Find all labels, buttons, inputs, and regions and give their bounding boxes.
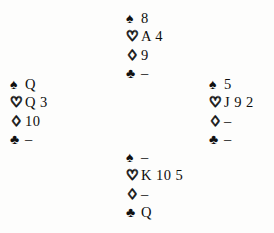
heart-icon: ♡ <box>126 169 139 183</box>
diamond-icon: ♢ <box>10 115 23 129</box>
hand-east-hearts-ranks: J 9 2 <box>222 95 254 110</box>
club-icon: ♣ <box>126 206 139 220</box>
diamond-icon: ♢ <box>209 115 222 129</box>
hand-south: ♠ – ♡ K 10 5 ♢ – ♣ Q <box>126 150 183 223</box>
hand-east-diamonds-row: ♢ – <box>209 114 254 132</box>
hand-west: ♠ Q ♡ Q 3 ♢ 10 ♣ – <box>10 77 48 150</box>
hand-north-spades-row: ♠ 8 <box>126 11 163 29</box>
hand-east-diamonds-ranks: – <box>222 114 231 129</box>
hand-east-spades-row: ♠ 5 <box>209 77 254 95</box>
hand-south-clubs-ranks: Q <box>139 205 152 220</box>
hand-south-spades-row: ♠ – <box>126 150 183 168</box>
hand-east-hearts-row: ♡ J 9 2 <box>209 95 254 113</box>
hand-east-clubs-row: ♣ – <box>209 132 254 150</box>
hand-east: ♠ 5 ♡ J 9 2 ♢ – ♣ – <box>209 77 254 150</box>
hand-north-hearts-ranks: A 4 <box>139 29 163 44</box>
hand-west-hearts-ranks: Q 3 <box>23 95 48 110</box>
hand-south-diamonds-ranks: – <box>139 187 148 202</box>
heart-icon: ♡ <box>126 30 139 44</box>
hand-south-hearts-ranks: K 10 5 <box>139 168 183 183</box>
hand-north-spades-ranks: 8 <box>139 11 149 26</box>
club-icon: ♣ <box>209 133 222 147</box>
hand-north-clubs-row: ♣ – <box>126 66 163 84</box>
hand-west-clubs-ranks: – <box>23 132 32 147</box>
spade-icon: ♠ <box>126 12 139 26</box>
hand-west-hearts-row: ♡ Q 3 <box>10 95 48 113</box>
hand-west-diamonds-ranks: 10 <box>23 114 40 129</box>
hand-west-diamonds-row: ♢ 10 <box>10 114 48 132</box>
hand-south-clubs-row: ♣ Q <box>126 205 183 223</box>
hand-north: ♠ 8 ♡ A 4 ♢ 9 ♣ – <box>126 11 163 84</box>
diamond-icon: ♢ <box>126 188 139 202</box>
heart-icon: ♡ <box>209 96 222 110</box>
hand-north-hearts-row: ♡ A 4 <box>126 29 163 47</box>
bridge-deal-diagram: ♠ 8 ♡ A 4 ♢ 9 ♣ – ♠ Q ♡ Q 3 ♢ 10 ♣ <box>0 0 274 233</box>
heart-icon: ♡ <box>10 96 23 110</box>
hand-west-clubs-row: ♣ – <box>10 132 48 150</box>
spade-icon: ♠ <box>126 151 139 165</box>
club-icon: ♣ <box>10 133 23 147</box>
hand-south-diamonds-row: ♢ – <box>126 187 183 205</box>
hand-south-hearts-row: ♡ K 10 5 <box>126 168 183 186</box>
hand-east-spades-ranks: 5 <box>222 77 232 92</box>
hand-north-diamonds-ranks: 9 <box>139 48 149 63</box>
spade-icon: ♠ <box>209 78 222 92</box>
hand-south-spades-ranks: – <box>139 150 148 165</box>
hand-north-diamonds-row: ♢ 9 <box>126 48 163 66</box>
diamond-icon: ♢ <box>126 49 139 63</box>
hand-north-clubs-ranks: – <box>139 66 148 81</box>
spade-icon: ♠ <box>10 78 23 92</box>
hand-east-clubs-ranks: – <box>222 132 231 147</box>
hand-west-spades-ranks: Q <box>23 77 36 92</box>
hand-west-spades-row: ♠ Q <box>10 77 48 95</box>
club-icon: ♣ <box>126 67 139 81</box>
